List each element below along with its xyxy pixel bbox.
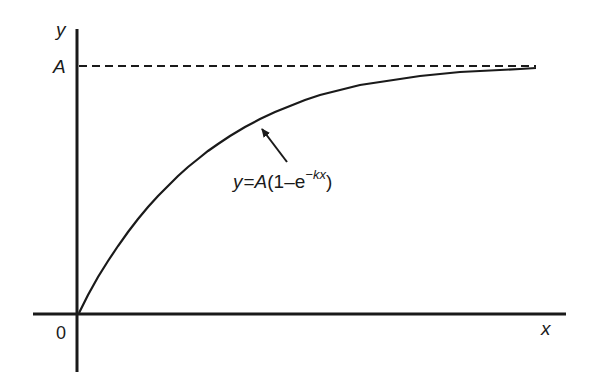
equation-amplitude: A xyxy=(254,171,268,192)
annotation-arrow xyxy=(262,129,287,162)
asymptote-label: A xyxy=(52,56,66,77)
y-axis-label: y xyxy=(54,19,67,40)
equation-close: ) xyxy=(326,171,332,192)
equation-equals: = xyxy=(244,171,255,192)
equation-open: (1–e xyxy=(267,171,305,192)
origin-label: 0 xyxy=(56,323,66,343)
equation-lhs: y xyxy=(231,171,244,192)
x-axis-label: x xyxy=(540,318,552,339)
exponential-curve xyxy=(79,68,536,313)
equation-exponent: −kx xyxy=(305,167,326,182)
equation-label: y=A(1–e−kx) xyxy=(231,167,332,192)
exponential-saturation-diagram: y A 0 x y=A(1–e−kx) xyxy=(0,0,594,380)
